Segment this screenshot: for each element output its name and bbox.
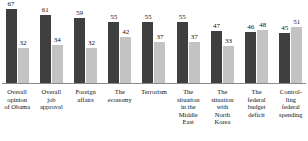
bar-value-label: 48: [259, 22, 266, 29]
bar-chart: 673261345932554255375537473346484551 Ove…: [0, 0, 308, 141]
bar-series-a: 67: [6, 9, 17, 83]
category-label: Thesituationin theMiddleEast: [171, 84, 205, 141]
bar-group: 6134: [34, 0, 68, 83]
category-label-line: Overall: [0, 88, 34, 96]
bar-series-b: 33: [223, 46, 234, 83]
category-label: Overallopinionof Obama: [0, 84, 34, 141]
bar-value-label: 55: [110, 14, 117, 21]
category-label-line: approval: [34, 103, 68, 111]
bar-value-label: 46: [247, 24, 254, 31]
category-label-line: job: [34, 96, 68, 104]
bar-value-label: 37: [191, 34, 198, 41]
category-label-line: The: [240, 88, 274, 96]
category-label-line: in the: [171, 103, 205, 111]
bar-value-label: 45: [281, 25, 288, 32]
bar-series-b: 37: [189, 42, 200, 83]
category-label-line: situation: [205, 96, 239, 104]
bar-value-label: 59: [76, 10, 83, 17]
category-label-line: federal: [240, 96, 274, 104]
bar-value-label: 51: [293, 19, 300, 26]
bar-series-b: 42: [120, 37, 131, 83]
bar-group: 6732: [0, 0, 34, 83]
category-label-line: budget: [240, 103, 274, 111]
bar-series-b: 32: [86, 48, 97, 83]
category-label-line: Middle: [171, 111, 205, 119]
category-label-line: spending: [274, 111, 308, 119]
bar-value-label: 47: [213, 23, 220, 30]
bar-series-b: 32: [18, 48, 29, 83]
plot-area: 673261345932554255375537473346484551: [0, 0, 308, 84]
bar-series-a: 59: [74, 18, 85, 83]
category-label-line: opinion: [0, 96, 34, 104]
category-label-line: Terrorism: [137, 88, 171, 96]
category-label-line: ling: [274, 96, 308, 104]
category-label-line: federal: [274, 103, 308, 111]
bar-value-label: 34: [54, 37, 61, 44]
category-label: Thefederalbudgetdeficit: [240, 84, 274, 141]
bar-group: 4733: [205, 0, 239, 83]
bar-group: 5537: [137, 0, 171, 83]
bar-value-label: 55: [144, 14, 151, 21]
category-label: Foreignaffairs: [68, 84, 102, 141]
bar-series-a: 46: [245, 32, 256, 83]
category-label-line: economy: [103, 96, 137, 104]
bar-groups: 673261345932554255375537473346484551: [0, 0, 308, 83]
category-label-line: Control-: [274, 88, 308, 96]
bar-series-b: 37: [154, 42, 165, 83]
bar-series-b: 51: [291, 27, 302, 83]
category-label: Control-lingfederalspending: [274, 84, 308, 141]
bar-group: 4551: [274, 0, 308, 83]
category-label-line: Foreign: [68, 88, 102, 96]
bar-series-a: 47: [211, 31, 222, 83]
bar-value-label: 32: [20, 40, 27, 47]
bar-series-a: 55: [177, 22, 188, 83]
bar-series-a: 61: [40, 15, 51, 83]
category-label-line: The: [171, 88, 205, 96]
bar-value-label: 37: [156, 34, 163, 41]
bar-value-label: 61: [42, 7, 49, 14]
category-label: Terrorism: [137, 84, 171, 141]
bar-group: 5542: [103, 0, 137, 83]
bar-series-a: 55: [142, 22, 153, 83]
category-axis-labels: Overallopinionof ObamaOveralljobapproval…: [0, 84, 308, 141]
bar-series-b: 48: [257, 30, 268, 83]
category-label-line: affairs: [68, 96, 102, 104]
category-label: Overalljobapproval: [34, 84, 68, 141]
bar-group: 5932: [68, 0, 102, 83]
category-label: ThesituationwithNorthKorea: [205, 84, 239, 141]
bar-group: 4648: [240, 0, 274, 83]
bar-series-a: 45: [279, 33, 290, 83]
category-label-line: situation: [171, 96, 205, 104]
category-label-line: East: [171, 118, 205, 126]
category-label-line: The: [103, 88, 137, 96]
category-label-line: North: [205, 111, 239, 119]
bar-group: 5537: [171, 0, 205, 83]
category-label-line: deficit: [240, 111, 274, 119]
category-label-line: Overall: [34, 88, 68, 96]
category-label: Theeconomy: [103, 84, 137, 141]
bar-series-a: 55: [108, 22, 119, 83]
bar-value-label: 33: [225, 38, 232, 45]
bar-series-b: 34: [52, 45, 63, 83]
bar-value-label: 32: [88, 40, 95, 47]
bar-value-label: 67: [8, 1, 15, 8]
category-label-line: Korea: [205, 118, 239, 126]
bar-value-label: 55: [179, 14, 186, 21]
category-label-line: The: [205, 88, 239, 96]
bar-value-label: 42: [122, 29, 129, 36]
category-label-line: with: [205, 103, 239, 111]
category-label-line: of Obama: [0, 103, 34, 111]
